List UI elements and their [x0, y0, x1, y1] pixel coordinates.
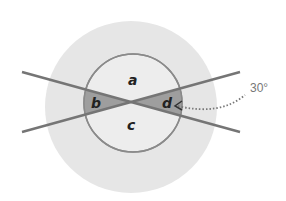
label-d: d: [162, 95, 173, 111]
label-a: a: [128, 72, 137, 88]
label-b: b: [91, 95, 101, 111]
label-c: c: [127, 117, 136, 133]
angle-label: 30°: [250, 81, 268, 95]
intersecting-lines-diagram: a b c d 30°: [0, 0, 286, 201]
